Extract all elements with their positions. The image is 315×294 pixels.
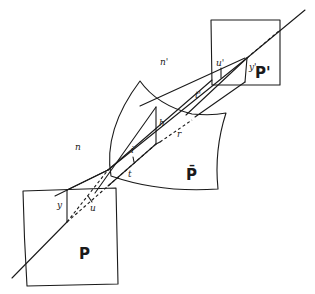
label-n-prime: n'	[160, 57, 168, 67]
optics-diagram: n' n h i t t' r y u u' y' P P' P̄	[0, 0, 315, 294]
label-i: i	[131, 145, 134, 155]
label-t: t	[128, 169, 132, 179]
label-P: P	[79, 245, 90, 263]
label-u-prime: u'	[216, 58, 224, 68]
optical-axis-mid	[156, 142, 160, 144]
angle-i-mark	[133, 157, 134, 162]
optical-axis-dashed-2	[160, 120, 192, 142]
label-u: u	[90, 203, 96, 213]
label-h: h	[159, 118, 165, 128]
ray-upper-out	[140, 58, 245, 106]
angle-u-mark	[88, 196, 92, 202]
label-P-prime: P'	[255, 64, 271, 82]
label-r: r	[177, 129, 182, 139]
label-n: n	[75, 142, 81, 152]
object-plane-box	[23, 188, 118, 286]
label-y: y	[56, 200, 63, 210]
label-t-prime: t'	[195, 90, 201, 100]
ray-lower-in	[55, 170, 108, 196]
image-height-line	[245, 58, 247, 82]
label-P-bar: P̄	[186, 164, 197, 184]
optical-axis	[12, 222, 67, 278]
